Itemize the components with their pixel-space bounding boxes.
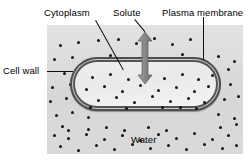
solute-particle [91,76,94,79]
solute-particle [233,117,236,120]
solute-particle [187,97,190,100]
solute-particle [219,126,222,129]
solute-particle [163,77,166,80]
solute-particle [157,133,160,136]
solute-particle [123,129,126,132]
solute-particle [67,129,70,132]
solute-particle [77,149,80,152]
solute-particle [109,73,112,76]
solute-particle [127,78,130,81]
solute-particle [169,100,172,103]
solute-particle [97,99,100,102]
solute-particle [149,147,152,150]
solute-particle [165,129,168,132]
solute-particle [139,84,142,87]
solute-particle [153,37,156,40]
solute-particle [189,38,192,41]
solute-particle [175,137,178,140]
solute-particle [185,148,188,151]
solute-particle [89,106,92,109]
solute-particle [97,39,100,42]
solute-particle [77,41,80,44]
solute-particle [95,144,98,147]
cell-wall-leader-line [47,71,73,72]
solute-particle [237,95,240,98]
solute-particle [235,123,238,126]
solute-particle [197,78,200,81]
solute-particle [105,126,108,129]
solute-particle [179,106,182,109]
solute-particle [125,107,128,110]
solute-particle [51,86,54,89]
solute-particle [207,85,210,88]
solute-particle [229,83,232,86]
label-solute: Solute [113,8,141,18]
solute-particle [151,95,154,98]
solute-particle [133,101,136,104]
solute-particle [217,113,220,116]
solute-particle [61,125,64,128]
solute-particle [193,90,196,93]
solute-particle [117,38,120,41]
solute-particle [55,114,58,117]
solute-particle [181,73,184,76]
solute-particle [71,111,74,114]
solute-particle [59,145,62,148]
solute-particle [65,97,68,100]
solute-particle [221,147,224,150]
label-cell-wall: Cell wall [3,66,39,76]
solute-particle [87,128,90,131]
solute-particle [115,96,118,99]
solute-particle [157,89,160,92]
solute-particle [235,144,238,147]
solute-particle [223,98,226,101]
water-movement-arrow [137,32,153,84]
solute-particle [203,143,206,146]
solute-particle [85,133,88,136]
solute-particle [53,58,56,61]
solute-particle [233,60,236,63]
solute-particle [67,137,70,140]
osmosis-diagram: Water Cytoplasm Solute Plasma membrane C… [0,0,251,161]
solute-particle [181,53,184,56]
solute-particle [53,134,56,137]
solute-particle [227,68,230,71]
solute-particle [195,107,198,110]
solute-particle [63,72,66,75]
solute-particle [175,86,178,89]
label-water: Water [131,135,156,145]
solute-particle [147,126,150,129]
solute-particle [193,132,196,135]
solute-particle [121,134,124,137]
plasma-membrane-leader-line [203,17,204,60]
solute-particle [87,116,90,119]
solute-particle [211,74,214,77]
solute-particle [103,138,106,141]
solute-particle [161,106,164,109]
solute-particle [103,85,106,88]
label-plasma-membrane: Plasma membrane [162,8,243,18]
label-cytoplasm: Cytoplasm [44,8,90,18]
solute-particle [113,148,116,151]
solute-particle [121,90,124,93]
solute-particle [59,44,62,47]
solute-particle [203,101,206,104]
solute-particle [49,100,52,103]
solute-particle [171,43,174,46]
solute-particle [167,144,170,147]
solute-particle [227,134,230,137]
solute-particle [211,138,214,141]
solute-particle [85,88,88,91]
